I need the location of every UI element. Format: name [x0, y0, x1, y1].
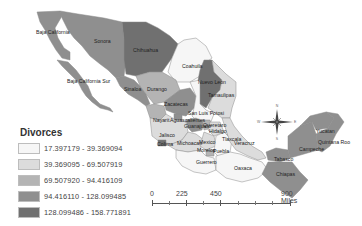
label-nuevo-leon: Nuevo Leon [198, 79, 226, 85]
label-yucatan: Yucatan [316, 128, 335, 134]
label-colima: Colima [157, 141, 173, 147]
scale-tick [290, 200, 291, 206]
legend-label: 69.507920 - 94.416109 [44, 176, 123, 185]
scale-tick-minor [272, 201, 273, 205]
label-coahuila: Coahuila [182, 63, 203, 69]
label-guerrero: Guerrero [196, 159, 217, 165]
scale-label-900: 900 Miles [281, 190, 310, 204]
label-durango: Durango [147, 86, 167, 92]
scale-label-0: 0 [150, 190, 154, 197]
scale-line [152, 203, 291, 204]
legend-swatch [18, 159, 40, 170]
scale-tick-minor [203, 201, 204, 205]
label-baja-california: Baja California [36, 29, 70, 35]
scale-label-225: 225 [176, 190, 188, 197]
label-quintana-roo: Quintana Roo [318, 139, 350, 145]
scale-tick [220, 200, 221, 206]
label-chiapas: Chiapas [276, 171, 295, 177]
scale-bar: 0 225 450 900 Miles [150, 190, 310, 210]
scale-label-450: 450 [210, 190, 222, 197]
state-campeche [288, 122, 318, 158]
legend-swatch [18, 191, 40, 202]
svg-text:W: W [257, 120, 261, 124]
svg-text:S: S [276, 137, 279, 141]
label-baja-california-sur: Baja California Sur [67, 78, 111, 84]
svg-text:N: N [276, 104, 279, 108]
legend-label: 39.369095 - 69.507919 [44, 160, 123, 169]
label-san-luis-potosi: San Luis Potosi [188, 110, 224, 116]
legend-swatch [18, 143, 40, 154]
label-sinaloa: Sinaloa [124, 86, 141, 92]
legend-label: 94.416110 - 128.099485 [44, 192, 126, 201]
label-jalisco: Jalisco [159, 132, 175, 138]
legend-item: 17.397179 - 39.369094 [18, 140, 148, 156]
legend-item: 39.369095 - 69.507919 [18, 156, 148, 172]
state-baja-california-sur [57, 60, 113, 112]
legend-label: 17.397179 - 39.369094 [44, 144, 123, 153]
label-campeche: Campeche [299, 146, 324, 152]
scale-tick-minor [238, 201, 239, 205]
label-nayarit: Nayarit [153, 117, 170, 123]
label-hidalgo: Hidalgo [209, 128, 227, 134]
legend-label: 128.099486 - 158.771891 [44, 208, 131, 217]
label-sonora: Sonora [94, 38, 111, 44]
legend-item: 69.507920 - 94.416109 [18, 172, 148, 188]
legend-item: 94.416110 - 128.099485 [18, 189, 148, 205]
scale-tick-minor [169, 201, 170, 205]
label-chihuahua: Chihuahua [133, 47, 158, 53]
scale-tick [152, 200, 153, 206]
svg-text:E: E [294, 120, 297, 124]
scale-tick-minor [255, 201, 256, 205]
legend-item: 128.099486 - 158.771891 [18, 205, 148, 221]
legend: Divorces 17.397179 - 39.369094 39.369095… [18, 127, 148, 221]
label-mexico: Mexico [199, 139, 216, 145]
legend-swatch [18, 175, 40, 186]
scale-tick [186, 200, 187, 206]
label-oaxaca: Oaxaca [234, 165, 252, 171]
label-zacatecas: Zacatecas [164, 101, 188, 107]
label-veracruz: Veracruz [234, 140, 255, 146]
label-puebla: Puebla [213, 148, 229, 154]
label-tamaulipas: Tamaulipas [208, 92, 235, 98]
legend-swatch [18, 207, 40, 218]
label-tabasco: Tabasco [274, 156, 293, 162]
legend-title: Divorces [20, 127, 148, 138]
